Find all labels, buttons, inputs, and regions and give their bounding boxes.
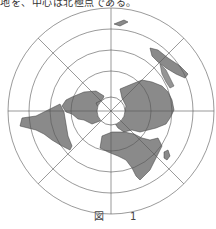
graticule bbox=[8, 8, 214, 214]
madagascar bbox=[164, 150, 170, 160]
figure-label: 図 1 bbox=[94, 208, 144, 223]
arctic-peninsula-top bbox=[114, 20, 128, 26]
polar-world-map bbox=[0, 0, 216, 229]
africa bbox=[100, 132, 162, 180]
east-asia-coast bbox=[150, 48, 188, 78]
